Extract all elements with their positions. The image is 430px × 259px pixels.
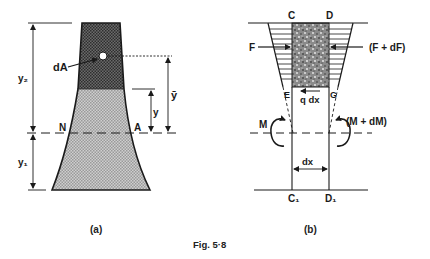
label-D: D bbox=[326, 10, 333, 21]
stress-hatch-left bbox=[270, 29, 292, 79]
panel-b-label: (b) bbox=[304, 224, 317, 235]
panel-a-label: (a) bbox=[90, 224, 102, 235]
label-dA: dA bbox=[53, 61, 68, 73]
stress-hatch-right bbox=[329, 29, 351, 79]
label-N: N bbox=[59, 122, 66, 133]
label-D1: D₁ bbox=[325, 193, 336, 204]
section-lower-region bbox=[52, 89, 150, 190]
label-y2: y₂ bbox=[18, 73, 28, 84]
label-M: M bbox=[259, 119, 267, 130]
label-M-plus-dM: (M + dM) bbox=[346, 116, 387, 127]
label-ybar: ȳ bbox=[171, 89, 178, 101]
label-A: A bbox=[134, 122, 141, 133]
dA-element bbox=[99, 52, 107, 60]
panel-b: C D F (F + dF) E G q dx M (M + dM) dx C₁… bbox=[248, 10, 405, 235]
label-y1: y₁ bbox=[18, 157, 28, 168]
label-F: F bbox=[249, 42, 255, 53]
label-G: G bbox=[330, 90, 337, 100]
label-C1: C₁ bbox=[288, 193, 299, 204]
figure-caption: Fig. 5·8 bbox=[193, 239, 226, 250]
figure-5-8: dA N A y₂ y₁ y ȳ (a) bbox=[0, 0, 430, 259]
element-CDGE bbox=[292, 23, 329, 87]
label-C: C bbox=[288, 10, 295, 21]
label-dx: dx bbox=[302, 156, 314, 167]
label-y: y bbox=[153, 107, 159, 118]
label-q-dx: q dx bbox=[300, 94, 320, 105]
panel-a: dA N A y₂ y₁ y ȳ (a) bbox=[18, 23, 180, 235]
label-F-plus-dF: (F + dF) bbox=[369, 42, 405, 53]
label-E: E bbox=[284, 90, 290, 100]
